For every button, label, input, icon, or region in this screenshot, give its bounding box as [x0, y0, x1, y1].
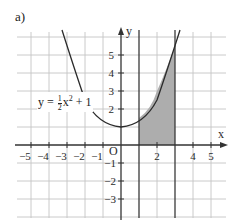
fraction-denominator: 2 — [58, 104, 62, 112]
svg-text:−1: −1 — [104, 157, 116, 169]
graph-figure: −5 −4 −3 −2 −1 2 4 5 5 4 3 2 −1 −2 −3 O … — [0, 0, 236, 222]
svg-text:−2: −2 — [73, 150, 85, 162]
fraction: 12 — [58, 95, 62, 112]
svg-text:2: 2 — [109, 103, 115, 115]
svg-text:2: 2 — [154, 150, 160, 162]
svg-text:5: 5 — [208, 150, 214, 162]
function-lhs: y = — [38, 95, 57, 109]
function-constant: + 1 — [73, 95, 92, 109]
svg-text:−2: −2 — [104, 175, 116, 187]
origin-label: O — [109, 144, 118, 158]
y-axis-label: y — [126, 24, 132, 38]
svg-text:−5: −5 — [19, 150, 31, 162]
svg-text:−3: −3 — [104, 193, 116, 205]
svg-text:4: 4 — [109, 67, 115, 79]
function-label: y = 12x2 + 1 — [37, 92, 93, 112]
svg-text:3: 3 — [109, 85, 115, 97]
svg-text:−4: −4 — [37, 150, 49, 162]
y-axis-arrow-icon — [118, 27, 124, 35]
svg-text:−3: −3 — [55, 150, 67, 162]
svg-text:4: 4 — [190, 150, 196, 162]
svg-text:5: 5 — [109, 49, 115, 61]
x-axis-label: x — [218, 127, 224, 141]
svg-text:−1: −1 — [91, 150, 103, 162]
coordinate-plane: −5 −4 −3 −2 −1 2 4 5 5 4 3 2 −1 −2 −3 O … — [0, 0, 236, 222]
part-label: a) — [15, 9, 25, 25]
x-axis-arrow-icon — [220, 142, 228, 148]
